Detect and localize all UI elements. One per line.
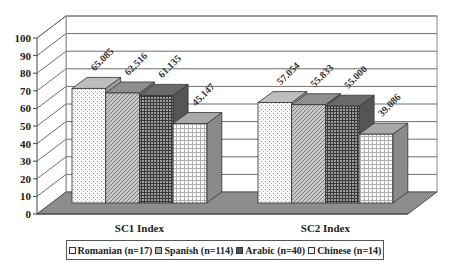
legend-item-spanish: Spanish (n=114) xyxy=(155,245,233,256)
x-category-label: SC2 Index xyxy=(301,222,351,234)
y-tick-label: 70 xyxy=(20,85,32,97)
bar xyxy=(359,123,408,203)
legend-swatch-spanish-icon xyxy=(155,247,162,254)
legend-label: Chinese (n=14) xyxy=(317,245,381,256)
y-tick-label: 0 xyxy=(26,208,32,220)
y-tick-label: 50 xyxy=(20,120,32,132)
legend-swatch-romanian-icon xyxy=(69,247,76,254)
legend-label: Spanish (n=114) xyxy=(164,245,233,256)
y-tick-label: 30 xyxy=(20,155,32,167)
y-tick-label: 40 xyxy=(20,138,32,150)
legend-item-arabic: Arabic (n=40) xyxy=(236,245,305,256)
legend: Romanian (n=17) Spanish (n=114) Arabic (… xyxy=(66,240,384,260)
legend-swatch-arabic-icon xyxy=(236,247,243,254)
bar-chart: 010203040506070809010065.08562.51661.135… xyxy=(0,0,454,275)
y-tick-label: 10 xyxy=(20,190,32,202)
legend-label: Arabic (n=40) xyxy=(245,245,305,256)
plot-area: 010203040506070809010065.08562.51661.135… xyxy=(15,16,438,234)
y-tick-label: 20 xyxy=(20,173,32,185)
y-tick-label: 90 xyxy=(20,50,32,62)
legend-item-romanian: Romanian (n=17) xyxy=(69,245,153,256)
y-tick-label: 80 xyxy=(20,67,32,79)
y-tick-label: 60 xyxy=(20,102,32,114)
y-tick-label: 100 xyxy=(15,32,32,44)
x-category-label: SC1 Index xyxy=(115,222,165,234)
legend-item-chinese: Chinese (n=14) xyxy=(308,245,381,256)
legend-swatch-chinese-icon xyxy=(308,247,315,254)
legend-label: Romanian (n=17) xyxy=(78,245,153,256)
bar xyxy=(173,113,222,203)
